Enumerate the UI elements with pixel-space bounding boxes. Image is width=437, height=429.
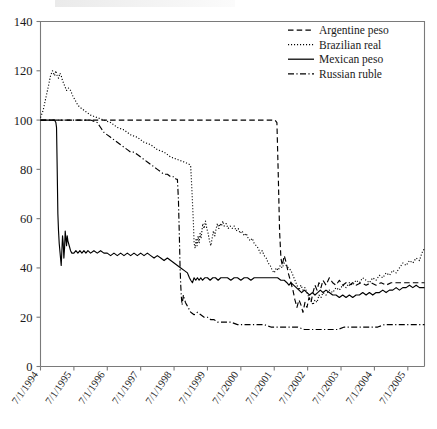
currency-index-line-chart: 0204060801001201407/1/19947/1/19957/1/19… [0, 0, 437, 429]
x-tick-label: 7/1/1998 [143, 369, 173, 406]
legend: Argentine pesoBrazilian realMexican peso… [288, 24, 389, 80]
x-tick-label: 7/1/1996 [76, 369, 106, 406]
x-tick-label: 7/1/2005 [377, 369, 407, 406]
y-tick-label: 120 [14, 64, 33, 78]
y-tick-label: 140 [14, 15, 33, 29]
legend-label: Russian ruble [319, 68, 382, 80]
x-tick-label: 7/1/2004 [344, 369, 375, 407]
y-tick-label: 100 [14, 114, 33, 128]
y-tick-label: 20 [20, 311, 33, 325]
series-line-argentine-peso [41, 120, 425, 312]
legend-label: Argentine peso [319, 24, 389, 37]
x-tick-label: 7/1/1997 [110, 369, 140, 406]
x-tick-label: 7/1/2003 [310, 369, 340, 406]
legend-label: Brazilian real [319, 39, 381, 51]
x-tick-label: 7/1/1999 [177, 369, 207, 406]
x-tick-label: 7/1/2000 [210, 369, 240, 406]
y-tick-label: 40 [20, 261, 33, 275]
legend-label: Mexican peso [319, 53, 383, 66]
x-tick-label: 7/1/2002 [277, 369, 307, 406]
series-line-brazilian-real [41, 71, 425, 305]
y-tick-label: 60 [20, 212, 33, 226]
series-line-mexican-peso [41, 120, 425, 297]
chart-figure: 0204060801001201407/1/19947/1/19957/1/19… [0, 0, 437, 429]
series-line-russian-ruble [41, 120, 425, 329]
y-tick-label: 80 [20, 163, 33, 177]
x-tick-label: 7/1/1995 [43, 369, 73, 406]
x-tick-label: 7/1/2001 [243, 369, 273, 406]
x-tick-label: 7/1/1994 [10, 369, 41, 407]
